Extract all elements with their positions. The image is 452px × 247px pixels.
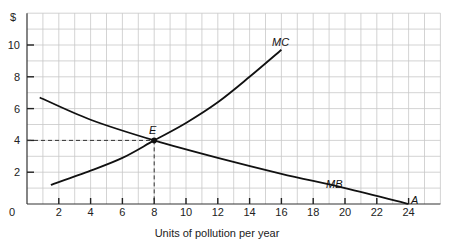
y-tick-label: 4 xyxy=(14,134,20,146)
grid xyxy=(27,13,440,204)
x-tick-label: 10 xyxy=(180,206,192,218)
ticks: 24681012141618202224246810 xyxy=(8,39,415,218)
x-tick-label: 14 xyxy=(243,206,255,218)
x-tick-label: 20 xyxy=(339,206,351,218)
mc-curve-label: MC xyxy=(272,36,289,48)
y-tick-label: 6 xyxy=(14,103,20,115)
y-tick-label: 8 xyxy=(14,71,20,83)
equilibrium-label: E xyxy=(149,124,157,136)
x-tick-label: 8 xyxy=(151,206,157,218)
curves xyxy=(40,50,409,204)
x-tick-label: 18 xyxy=(307,206,319,218)
mb-curve-label: MB xyxy=(326,178,343,190)
x-tick-label: 16 xyxy=(275,206,287,218)
equilibrium-point xyxy=(151,138,157,144)
x-tick-label: 6 xyxy=(119,206,125,218)
y-axis-unit-label: $ xyxy=(10,11,16,23)
y-tick-label: 2 xyxy=(14,166,20,178)
x-tick-label: 22 xyxy=(371,206,383,218)
x-tick-label: 12 xyxy=(212,206,224,218)
origin-label: 0 xyxy=(9,206,15,218)
x-axis-title: Units of pollution per year xyxy=(155,227,280,239)
intercept-a-label: A xyxy=(410,194,418,206)
x-tick-label: 24 xyxy=(402,206,414,218)
pollution-chart: 24681012141618202224246810 $ 0 Units of … xyxy=(0,0,452,247)
x-tick-label: 4 xyxy=(88,206,94,218)
y-tick-label: 10 xyxy=(8,39,20,51)
x-tick-label: 2 xyxy=(56,206,62,218)
